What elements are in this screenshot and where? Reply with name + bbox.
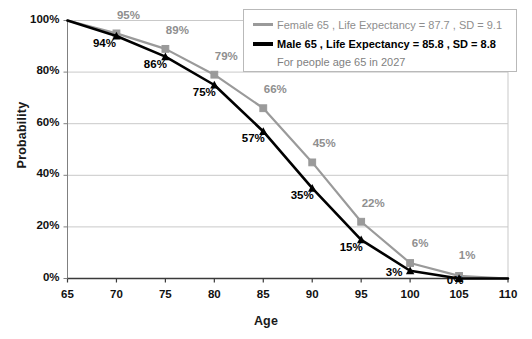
x-tick-label: 95 xyxy=(341,288,381,300)
data-label-male-85: 57% xyxy=(236,132,270,144)
data-label-male-105: 0% xyxy=(438,274,472,286)
y-tick-label: 0% xyxy=(16,271,60,283)
survival-probability-chart: Probability Age 0%20%40%60%80%100% 65707… xyxy=(0,0,532,339)
x-tick-label: 90 xyxy=(292,288,332,300)
legend-label-female: Female 65 , Life Expectancy = 87.7 , SD … xyxy=(277,19,502,31)
data-label-female-75: 89% xyxy=(160,24,194,36)
y-tick-label: 60% xyxy=(16,116,60,128)
data-label-female-85: 66% xyxy=(258,83,292,95)
data-label-female-95: 22% xyxy=(356,197,390,209)
x-tick-label: 100 xyxy=(390,288,430,300)
x-tick-label: 70 xyxy=(96,288,136,300)
y-tick-label: 100% xyxy=(16,13,60,25)
data-label-female-105: 1% xyxy=(450,249,484,261)
data-label-female-80: 79% xyxy=(209,50,243,62)
legend-item-female: Female 65 , Life Expectancy = 87.7 , SD … xyxy=(244,15,516,34)
data-label-female-90: 45% xyxy=(307,137,341,149)
data-label-male-90: 35% xyxy=(285,189,319,201)
data-label-male-70: 94% xyxy=(87,37,121,49)
x-tick-label: 105 xyxy=(439,288,479,300)
chart-legend: Female 65 , Life Expectancy = 87.7 , SD … xyxy=(243,9,517,72)
legend-line-swatch-male-icon xyxy=(253,42,273,46)
x-tick-label: 80 xyxy=(194,288,234,300)
data-label-male-100: 3% xyxy=(377,266,411,278)
legend-note: For people age 65 in 2027 xyxy=(244,53,516,71)
x-axis-title: Age xyxy=(0,314,532,328)
legend-label-male: Male 65 , Life Expectancy = 85.8 , SD = … xyxy=(277,38,496,50)
y-tick-label: 40% xyxy=(16,167,60,179)
x-tick-label: 75 xyxy=(145,288,185,300)
x-tick-label: 110 xyxy=(488,288,528,300)
data-label-male-75: 86% xyxy=(138,58,172,70)
legend-line-swatch-female-icon xyxy=(253,23,273,26)
data-label-male-95: 15% xyxy=(334,241,368,253)
legend-item-male: Male 65 , Life Expectancy = 85.8 , SD = … xyxy=(244,34,516,53)
data-label-female-70: 95% xyxy=(111,9,145,21)
data-label-female-100: 6% xyxy=(403,237,437,249)
x-tick-label: 85 xyxy=(243,288,283,300)
x-tick-label: 65 xyxy=(48,288,88,300)
y-tick-label: 20% xyxy=(16,219,60,231)
data-label-male-80: 75% xyxy=(187,86,221,98)
y-tick-label: 80% xyxy=(16,64,60,76)
